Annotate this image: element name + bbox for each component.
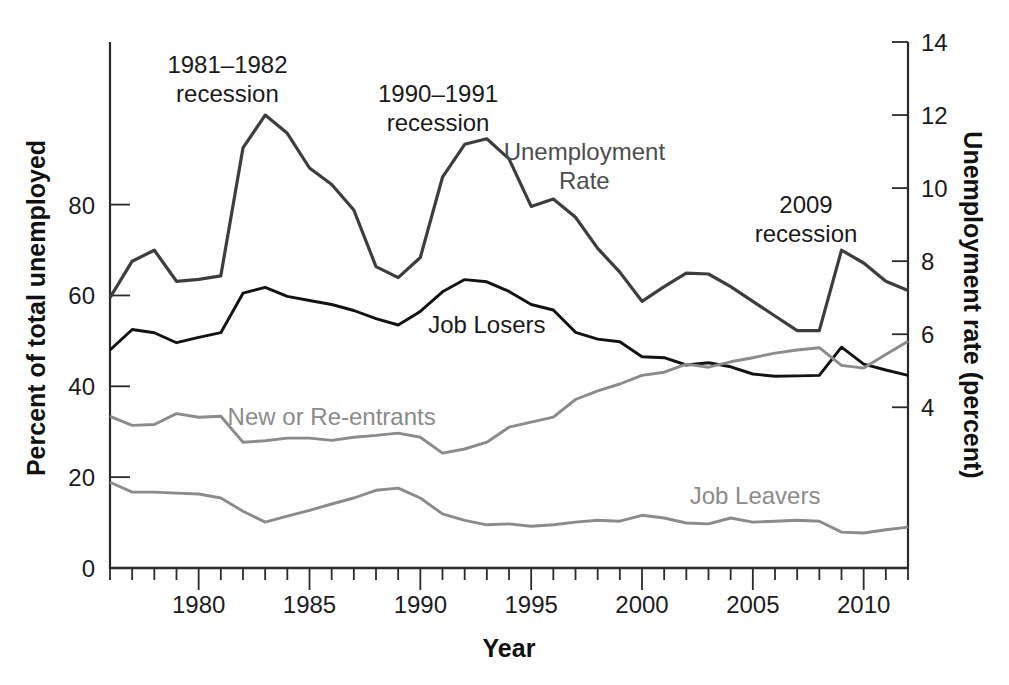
unemployment-reasons-chart: 0204060804681012141980198519901995200020… xyxy=(0,0,1009,685)
x-axis-tick-label: 1980 xyxy=(172,591,225,618)
right-axis-tick-label: 6 xyxy=(921,321,934,348)
left-axis-tick-label: 20 xyxy=(68,464,95,491)
x-axis-title: Year xyxy=(483,634,536,663)
right-axis-tick-label: 12 xyxy=(921,102,948,129)
chart-canvas: 0204060804681012141980198519901995200020… xyxy=(0,0,1009,685)
label-job-leavers-series: Job Leavers xyxy=(690,481,821,510)
right-axis-tick-label: 10 xyxy=(921,175,948,202)
left-axis-tick-label: 0 xyxy=(82,555,95,582)
left-axis-tick-label: 40 xyxy=(68,373,95,400)
annotation-2009-recession: 2009 recession xyxy=(755,190,858,248)
line-new-or-re-entrants xyxy=(110,341,908,453)
x-axis-tick-label: 1985 xyxy=(283,591,336,618)
right-axis-tick-label: 14 xyxy=(921,29,948,56)
x-axis-tick-label: 2000 xyxy=(615,591,668,618)
left-axis-tick-label: 80 xyxy=(68,192,95,219)
left-axis-title: Percent of total unemployed xyxy=(22,140,51,476)
x-axis-tick-label: 2005 xyxy=(726,591,779,618)
annotation-1990-1991-recession: 1990–1991 recession xyxy=(378,79,498,137)
right-axis-tick-label: 4 xyxy=(921,394,934,421)
label-job-losers-series: Job Losers xyxy=(428,309,545,338)
x-axis-tick-label: 2010 xyxy=(837,591,890,618)
right-axis-tick-label: 8 xyxy=(921,248,934,275)
left-axis-tick-label: 60 xyxy=(68,282,95,309)
right-axis-title: Unemployment rate (percent) xyxy=(958,131,987,478)
x-axis-tick-label: 1995 xyxy=(504,591,557,618)
x-axis-tick-label: 1990 xyxy=(394,591,447,618)
label-unemployment-rate-series: Unemployment Rate xyxy=(504,137,665,195)
annotation-1981-1982-recession: 1981–1982 recession xyxy=(167,50,287,108)
label-new-or-re-entrants-series: New or Re-entrants xyxy=(228,402,436,431)
